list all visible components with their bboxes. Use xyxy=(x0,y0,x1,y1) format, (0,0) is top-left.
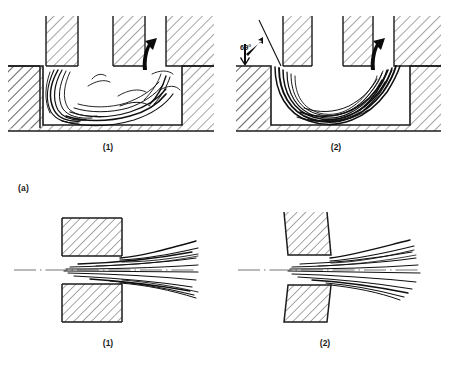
b1-upper-block-hatch xyxy=(62,218,122,256)
panel-label-b2: (2) xyxy=(320,338,331,348)
technical-flow-figure: (1) 69° xyxy=(0,0,449,373)
a2-right-upper-solid-hatch xyxy=(394,16,441,66)
a1-right-upper-solid-hatch xyxy=(166,16,214,66)
angle-label: 69° xyxy=(240,43,251,52)
panel-label-a2: (2) xyxy=(331,142,342,152)
a2-pillar-left-hatch xyxy=(283,16,312,66)
a1-pillar-left-hatch xyxy=(46,16,78,66)
subfigure-caption-a: (a) xyxy=(18,183,29,193)
b2-upper-block-hatch xyxy=(284,212,331,255)
figure-container: (1) 69° xyxy=(0,0,449,373)
panel-label-a1: (1) xyxy=(103,142,114,152)
a2-pillar-right-hatch xyxy=(343,16,373,66)
a1-pillar-right-hatch xyxy=(113,16,145,66)
b1-lower-block-hatch xyxy=(62,284,122,322)
panel-label-b1: (1) xyxy=(103,338,114,348)
b2-lower-block-hatch xyxy=(284,285,331,322)
